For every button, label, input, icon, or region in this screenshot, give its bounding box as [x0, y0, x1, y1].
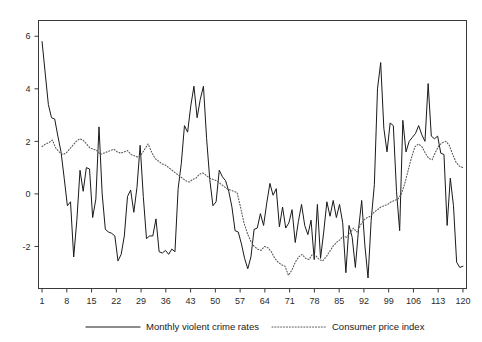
x-tick-label: 106	[406, 296, 421, 306]
x-tick-label: 15	[87, 296, 97, 306]
y-tick-label: 4	[25, 84, 30, 94]
y-tick-label: 0	[25, 189, 30, 199]
x-tick-label: 43	[186, 296, 196, 306]
x-tick-label: 64	[260, 296, 270, 306]
x-tick-label: 22	[111, 296, 121, 306]
y-axis-ticks: -20246	[22, 31, 38, 251]
chart-legend: Monthly violent crime ratesConsumer pric…	[86, 321, 425, 332]
x-tick-label: 71	[285, 296, 295, 306]
y-tick-label: 2	[25, 137, 30, 147]
y-tick-label: -2	[22, 242, 30, 252]
series-line-2	[42, 139, 463, 276]
x-tick-label: 120	[455, 296, 470, 306]
line-chart-canvas: -20246 181522293643505764717885929910611…	[0, 0, 482, 342]
x-tick-label: 78	[309, 296, 319, 306]
x-axis-ticks: 1815222936435057647178859299106113120	[40, 289, 471, 306]
x-tick-label: 57	[235, 296, 245, 306]
x-tick-label: 36	[161, 296, 171, 306]
series-line-1	[42, 42, 463, 278]
chart-figure: -20246 181522293643505764717885929910611…	[0, 0, 482, 342]
legend-label-2: Consumer price index	[332, 321, 425, 332]
x-tick-label: 1	[40, 296, 45, 306]
x-tick-label: 113	[431, 296, 445, 306]
x-tick-label: 85	[334, 296, 344, 306]
x-tick-label: 99	[384, 296, 394, 306]
y-tick-label: 6	[25, 31, 30, 41]
legend-label-1: Monthly violent crime rates	[146, 321, 259, 332]
x-tick-label: 92	[359, 296, 369, 306]
x-tick-label: 29	[136, 296, 146, 306]
data-series-group	[42, 42, 463, 278]
x-tick-label: 50	[210, 296, 220, 306]
x-tick-label: 8	[64, 296, 69, 306]
